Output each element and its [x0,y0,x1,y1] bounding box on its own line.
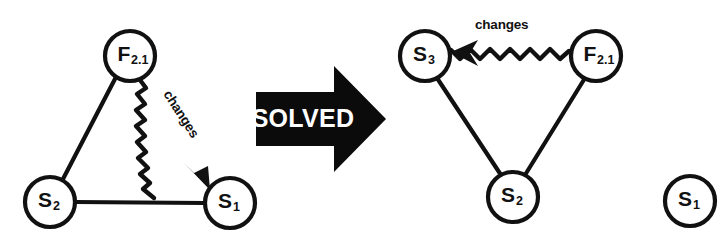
node-label-s1-left: S [218,189,232,212]
left-graph: changes F 2.1 S 2 S 1 [25,31,255,228]
solved-transition-arrow: SOLVED [252,66,386,172]
right-graph: changes S 3 F 2.1 S 2 S [400,17,715,226]
edge-s2-s1 [75,202,205,203]
node-sub-s2-left: 2 [53,199,60,213]
node-label-f21-right: F [584,42,597,65]
node-sub-f21-right: 2.1 [597,53,614,67]
node-sub-s3-right: 3 [428,53,435,67]
arrowhead-to-s1 [183,162,210,190]
edge-f21-s3-wavy [451,40,569,66]
diagram-figure: changes F 2.1 S 2 S 1 S [0,0,723,241]
label-changes-right: changes [475,17,528,32]
node-label-s2-left: S [38,188,52,211]
node-sub-s1-left: 1 [233,200,240,214]
node-label-s2-right: S [501,183,515,206]
node-s2-left[interactable]: S 2 [25,177,75,227]
node-s2-right[interactable]: S 2 [488,172,538,222]
node-f21-right[interactable]: F 2.1 [571,31,621,81]
edge-s3-s2 [437,78,501,175]
node-s1-left[interactable]: S 1 [205,178,255,228]
node-label-s3-right: S [413,42,427,65]
node-label-f21-left: F [118,42,131,65]
edge-f21-s2-right [525,78,585,175]
node-sub-s1-right: 1 [693,198,700,212]
node-sub-s2-right: 2 [516,194,523,208]
node-sub-f21-left: 2.1 [131,53,148,67]
label-changes-left: changes [160,87,202,140]
node-s3-right[interactable]: S 3 [400,31,450,81]
edge-f21-s2 [63,77,116,179]
node-label-s1-right: S [678,187,692,210]
label-changes-left-group: changes [160,87,202,140]
node-s1-right-isolated[interactable]: S 1 [665,176,715,226]
solved-label: SOLVED [252,104,355,132]
diagram-canvas: changes F 2.1 S 2 S 1 S [0,0,723,241]
node-f21-left[interactable]: F 2.1 [105,31,155,81]
